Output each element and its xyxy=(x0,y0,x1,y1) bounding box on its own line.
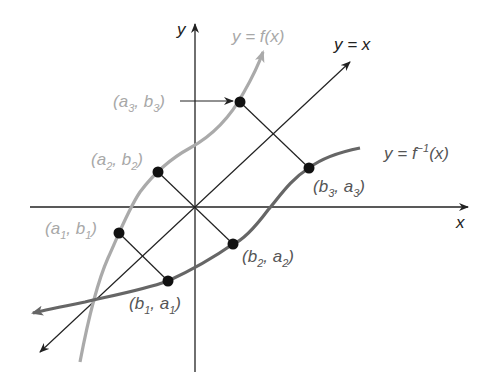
y-axis-label: y xyxy=(176,20,187,39)
label-b2-a2: (b2, a2) xyxy=(242,247,294,269)
label-b3-a3: (b3, a3) xyxy=(313,177,365,199)
reflection-segment-3 xyxy=(240,102,309,168)
f-inverse-label: y = f−1(x) xyxy=(383,142,449,163)
label-a3-b3: (a3, b3) xyxy=(113,92,165,114)
point-b3-a3 xyxy=(304,163,315,174)
point-a1-b1 xyxy=(114,228,125,239)
identity-label: y = x xyxy=(333,35,371,54)
inverse-function-diagram: y x y = f(x) y = x y = f−1(x) (a3, b3) (… xyxy=(0,0,504,388)
point-b1-a1 xyxy=(163,276,174,287)
label-b1-a1: (b1, a1) xyxy=(129,294,181,316)
point-a3-b3 xyxy=(235,97,246,108)
label-a2-b2: (a2, b2) xyxy=(91,150,143,172)
f-curve-label: y = f(x) xyxy=(231,27,284,46)
point-b2-a2 xyxy=(228,239,239,250)
point-a2-b2 xyxy=(153,167,164,178)
reflection-segment-1 xyxy=(119,233,168,281)
label-a1-b1: (a1, b1) xyxy=(45,219,97,241)
x-axis-label: x xyxy=(455,213,465,232)
